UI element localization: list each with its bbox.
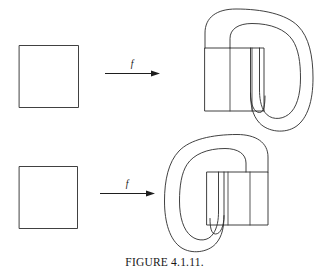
domain-square-bottom: [20, 167, 78, 229]
map-label-top: f: [131, 59, 135, 69]
horseshoe-bottom: [165, 135, 269, 252]
horseshoe-top: [205, 9, 313, 131]
arrow-head-top: [151, 71, 160, 77]
figure-container: f f: [0, 0, 329, 279]
domain-square-top: [20, 46, 79, 108]
map-arrow-bottom: f: [100, 179, 155, 197]
figure-caption: FIGURE 4.1.11.: [0, 256, 329, 268]
horseshoe-top-inner-edge: [230, 24, 301, 119]
row-top: f: [20, 9, 314, 131]
arrow-head-bottom: [146, 191, 155, 197]
row-bottom: f: [20, 135, 269, 252]
map-arrow-top: f: [105, 59, 160, 77]
image-rectangle-top: [205, 48, 264, 111]
map-label-bottom: f: [126, 179, 130, 189]
image-rectangle-bottom: [207, 172, 268, 225]
horseshoe-bottom-inner-edge: [180, 149, 247, 240]
figure-canvas: f f: [0, 0, 329, 279]
